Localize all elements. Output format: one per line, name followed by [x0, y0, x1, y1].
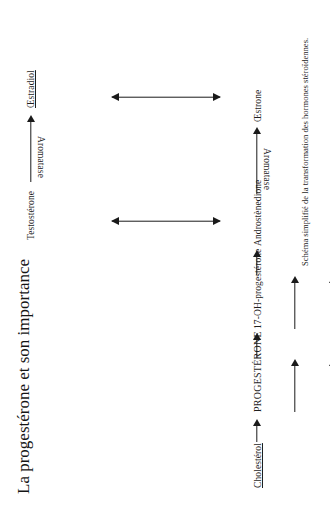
- arrow-testosterone-to-estradiol: [26, 116, 35, 182]
- node-cholesterol: Cholestérol: [253, 443, 263, 488]
- arrow-progesterone-to-corticosterone: [290, 360, 299, 412]
- arrow-17oh-to-androstenedione: [252, 251, 261, 275]
- enzyme-label-aromatase-lower: Aromatase: [262, 148, 272, 190]
- arrow-estrone-estradiol-bidirectional: [112, 93, 220, 102]
- arrow-androstenedione-to-estrone: [252, 128, 261, 194]
- arrow-cholesterol-to-progesterone: [252, 420, 261, 442]
- arrow-progesterone-to-17oh: [252, 334, 261, 358]
- diagram-poster: La progestérone et son importance Choles…: [0, 0, 330, 512]
- arrow-androstenedione-testosterone-bidirectional: [112, 217, 220, 226]
- node-estrone: Œstrone: [253, 90, 263, 122]
- figure-caption: Schéma simplifié de la transformation de…: [300, 38, 310, 266]
- rotated-page-canvas: La progestérone et son importance Choles…: [0, 0, 330, 512]
- enzyme-label-aromatase-upper: Aromatase: [36, 136, 46, 178]
- page-title: La progestérone et son importance: [14, 259, 34, 494]
- node-testosterone: Testostérone: [26, 191, 36, 240]
- node-estradiol: Œstradiol: [26, 70, 36, 108]
- arrow-17oh-to-cortisone: [290, 277, 299, 329]
